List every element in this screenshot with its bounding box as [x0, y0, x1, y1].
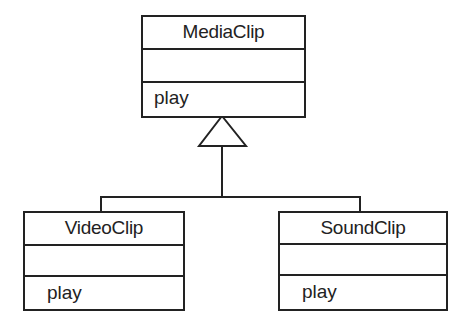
operation-divider: [25, 275, 183, 277]
operation-play: play: [47, 282, 82, 304]
class-name: MediaClip: [143, 21, 304, 43]
class-videoclip[interactable]: VideoClip play: [23, 211, 185, 311]
attribute-divider: [25, 244, 183, 246]
class-soundclip[interactable]: SoundClip play: [278, 211, 448, 311]
class-name: VideoClip: [25, 217, 183, 239]
generalization-line: [101, 197, 360, 212]
class-name: SoundClip: [280, 217, 446, 239]
operation-divider: [280, 274, 446, 276]
attribute-divider: [280, 243, 446, 245]
generalization-arrowhead-icon: [199, 116, 246, 146]
class-mediaclip[interactable]: MediaClip play: [141, 15, 306, 118]
operation-divider: [143, 81, 304, 83]
operation-play: play: [154, 87, 189, 109]
operation-play: play: [302, 281, 337, 303]
attribute-divider: [143, 48, 304, 50]
